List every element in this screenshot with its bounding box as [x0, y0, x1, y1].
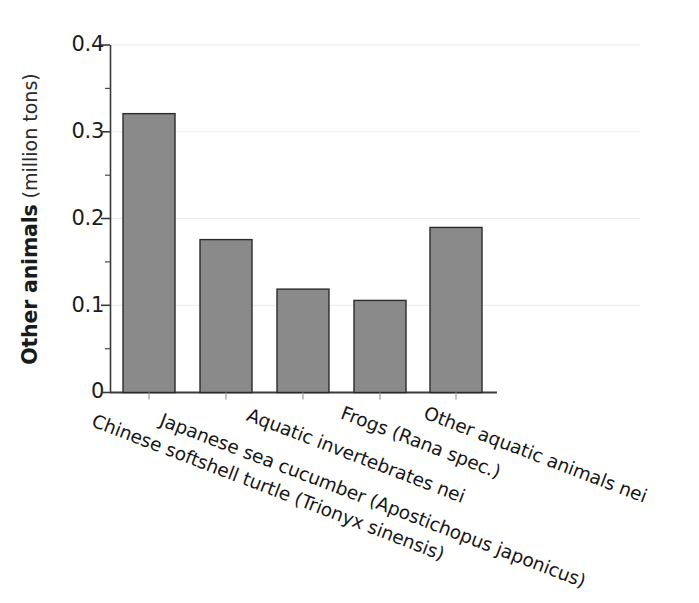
bar — [123, 114, 175, 393]
bar-chart-figure: Other animals (million tons) 0.4 0.3 0.2… — [0, 0, 699, 603]
bar — [277, 289, 329, 392]
gridlines — [110, 45, 640, 305]
x-axis-ticks — [149, 393, 456, 400]
bar-series — [123, 114, 482, 393]
bar — [200, 240, 252, 393]
bar — [354, 300, 406, 392]
bar — [430, 227, 482, 392]
y-axis-major-ticks — [101, 45, 110, 393]
